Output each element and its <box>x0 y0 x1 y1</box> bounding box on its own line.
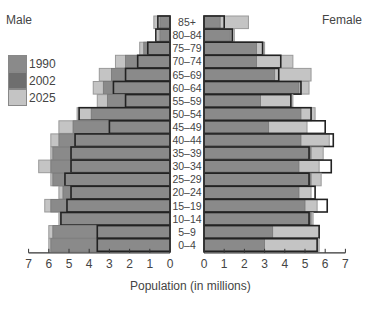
bar-female-1990 <box>204 121 269 134</box>
legend-swatch-2002 <box>8 72 27 89</box>
bar-female-1990 <box>204 173 311 186</box>
bar-female-1990 <box>204 147 311 160</box>
age-group-label: 40–44 <box>172 134 201 146</box>
bar-male-1990 <box>126 55 170 68</box>
x-tick-label: 6 <box>322 257 329 271</box>
x-tick-label: 1 <box>146 257 153 271</box>
age-group-label: 55–59 <box>172 95 201 107</box>
bar-male-1990 <box>51 160 170 173</box>
x-axis-title: Population (in millions) <box>130 279 251 293</box>
age-group-label: 25–29 <box>172 173 201 185</box>
bar-male-1990 <box>91 108 170 121</box>
bar-male-1990 <box>53 226 170 239</box>
legend-2002: 2002 <box>8 72 56 89</box>
x-tick-label: 2 <box>241 257 248 271</box>
legend-label-2002: 2002 <box>29 74 56 88</box>
bar-male-1990 <box>160 29 170 42</box>
bar-female-1990 <box>204 42 257 55</box>
age-group-label: 70–74 <box>172 55 201 67</box>
x-tick-label: 0 <box>167 257 174 271</box>
legend-2025: 2025 <box>8 89 56 106</box>
bar-female-1990 <box>204 82 299 95</box>
x-tick-label: 5 <box>302 257 309 271</box>
age-group-label: 0–4 <box>178 239 196 251</box>
age-group-label: 45–49 <box>172 121 201 133</box>
bar-male-1990 <box>160 16 170 29</box>
x-tick-label: 2 <box>126 257 133 271</box>
legend-label-1990: 1990 <box>29 57 56 71</box>
x-tick-label: 5 <box>66 257 73 271</box>
legend-1990: 1990 <box>8 55 56 72</box>
bar-female-1990 <box>204 239 265 252</box>
bar-female-1990 <box>204 213 311 226</box>
bar-male-1990 <box>63 186 170 199</box>
age-group-label: 75–79 <box>172 42 201 54</box>
population-pyramid-chart: 85+80–8475–7970–7465–6960–6455–5950–5445… <box>0 0 373 310</box>
age-group-label: 60–64 <box>172 82 201 94</box>
bar-male-1990 <box>53 173 170 186</box>
female-label: Female <box>322 13 362 27</box>
x-tick-label: 4 <box>86 257 93 271</box>
age-group-label: 50–54 <box>172 108 201 120</box>
age-group-label: 15–19 <box>172 200 201 212</box>
bar-female-1990 <box>204 16 220 29</box>
bar-female-1990 <box>204 226 273 239</box>
age-group-label: 35–39 <box>172 147 201 159</box>
x-tick-label: 1 <box>221 257 228 271</box>
bar-female-1990 <box>204 95 261 108</box>
x-tick-label: 7 <box>342 257 349 271</box>
x-tick-label: 3 <box>106 257 113 271</box>
age-group-label: 85+ <box>178 16 196 28</box>
bar-female-1990 <box>204 55 257 68</box>
bar-male-1990 <box>107 95 170 108</box>
bar-female-1990 <box>204 199 305 212</box>
bar-female-1990 <box>204 160 299 173</box>
bar-male-1990 <box>73 121 170 134</box>
legend-swatch-2025 <box>8 89 27 106</box>
age-group-label: 20–24 <box>172 186 201 198</box>
x-tick-label: 3 <box>261 257 268 271</box>
bar-female-1990 <box>204 68 275 81</box>
bar-male-1990 <box>111 68 170 81</box>
x-tick-label: 6 <box>45 257 52 271</box>
legend-swatch-1990 <box>8 55 27 72</box>
bar-male-1990 <box>51 199 170 212</box>
age-group-label: 5–9 <box>178 226 196 238</box>
bar-female-1990 <box>204 186 299 199</box>
bar-male-1990 <box>61 213 170 226</box>
age-group-label: 65–69 <box>172 69 201 81</box>
age-group-label: 30–34 <box>172 160 201 172</box>
legend-label-2025: 2025 <box>29 91 56 105</box>
age-group-label: 10–14 <box>172 213 201 225</box>
x-tick-label: 4 <box>281 257 288 271</box>
x-tick-label: 0 <box>201 257 208 271</box>
x-tick-label: 7 <box>25 257 32 271</box>
bar-female-1990 <box>204 134 301 147</box>
male-label: Male <box>6 13 32 27</box>
bar-female-1990 <box>204 29 230 42</box>
age-group-label: 80–84 <box>172 29 201 41</box>
bar-female-1990 <box>204 108 301 121</box>
